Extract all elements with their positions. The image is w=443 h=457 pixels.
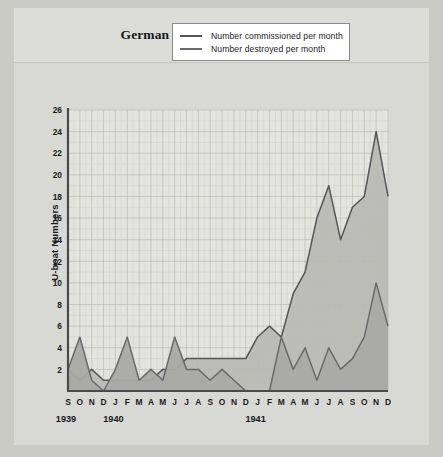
x-tick-label: O xyxy=(219,397,226,407)
y-tick-label: 20 xyxy=(53,170,63,180)
legend-item-destroyed: Number destroyed per month xyxy=(180,42,341,55)
x-tick-label: S xyxy=(65,397,71,407)
x-tick-label: M xyxy=(302,397,309,407)
x-tick-label: A xyxy=(338,397,344,407)
x-axis-year-label: 1939 xyxy=(56,414,76,424)
legend-line-swatch-destroyed xyxy=(180,48,202,50)
x-tick-label: N xyxy=(231,397,237,407)
x-tick-label: J xyxy=(315,397,320,407)
chart-svg: 2468101214161820222426SONDJFMAMJJASONDJF… xyxy=(0,62,443,442)
x-tick-label: J xyxy=(326,397,331,407)
x-tick-label: J xyxy=(255,397,260,407)
x-tick-label: O xyxy=(361,397,368,407)
x-tick-label: J xyxy=(172,397,177,407)
x-tick-label: D xyxy=(101,397,107,407)
y-axis-label: U-boat Numbers xyxy=(49,183,60,303)
legend-label-destroyed: Number destroyed per month xyxy=(211,44,325,54)
x-tick-label: O xyxy=(77,397,84,407)
x-tick-label: A xyxy=(148,397,154,407)
x-tick-label: M xyxy=(136,397,143,407)
x-tick-label: J xyxy=(184,397,189,407)
x-tick-label: S xyxy=(350,397,356,407)
chart-legend: Number commissioned per month Number des… xyxy=(172,23,350,61)
y-tick-label: 22 xyxy=(53,148,63,158)
y-tick-label: 24 xyxy=(53,127,63,137)
x-tick-label: F xyxy=(125,397,130,407)
x-tick-label: D xyxy=(243,397,249,407)
plot-area-wrapper: U-boat Numbers 2468101214161820222426SON… xyxy=(0,62,443,442)
x-tick-label: N xyxy=(89,397,95,407)
legend-item-commissioned: Number commissioned per month xyxy=(180,29,341,42)
chart-page: German U-boat Strength 1939–1941 U-boat … xyxy=(0,0,443,457)
y-tick-label: 2 xyxy=(57,365,62,375)
x-tick-label: N xyxy=(373,397,379,407)
x-tick-label: D xyxy=(385,397,391,407)
y-tick-label: 4 xyxy=(57,343,62,353)
x-axis-year-label: 1941 xyxy=(245,414,265,424)
y-tick-label: 6 xyxy=(57,321,62,331)
legend-label-commissioned: Number commissioned per month xyxy=(211,31,343,41)
x-tick-label: M xyxy=(278,397,285,407)
x-tick-label: J xyxy=(113,397,118,407)
x-tick-label: F xyxy=(267,397,272,407)
legend-line-swatch-commissioned xyxy=(180,35,202,37)
y-tick-label: 26 xyxy=(53,105,63,115)
x-tick-label: A xyxy=(195,397,201,407)
x-tick-label: M xyxy=(159,397,166,407)
x-axis-year-label: 1940 xyxy=(103,414,123,424)
x-tick-label: A xyxy=(290,397,296,407)
x-tick-label: S xyxy=(207,397,213,407)
